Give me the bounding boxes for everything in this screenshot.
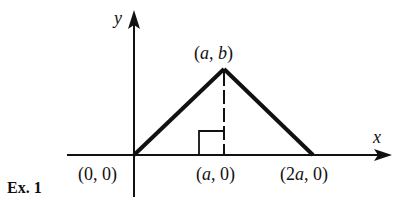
right-angle-marker bbox=[199, 131, 224, 155]
x-axis-label: x bbox=[372, 127, 381, 147]
origin-label: (0, 0) bbox=[78, 164, 117, 185]
apex-label: (a, b) bbox=[194, 43, 233, 64]
triangle-right-side bbox=[224, 69, 313, 155]
foot-label: (a, 0) bbox=[196, 164, 235, 185]
right-base-label: (2a, 0) bbox=[280, 164, 328, 185]
triangle-diagram: y x (a, b) (0, 0) (a, 0) (2a, 0) Ex. 1 bbox=[0, 0, 405, 200]
y-axis-label: y bbox=[112, 8, 122, 28]
example-caption: Ex. 1 bbox=[7, 179, 42, 196]
triangle-left-side bbox=[134, 69, 224, 155]
